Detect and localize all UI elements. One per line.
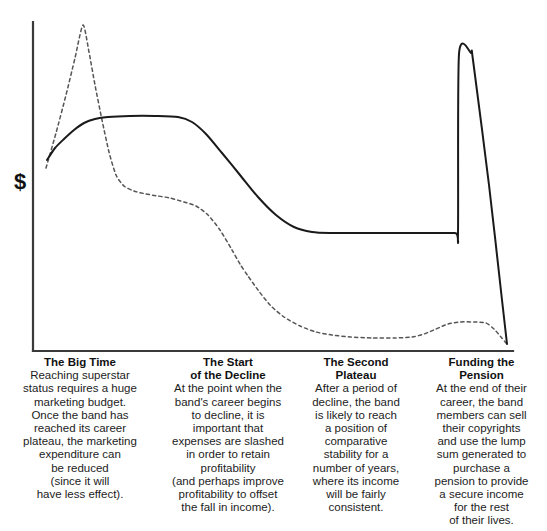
caption-row: The Big Time Reaching superstar status r… — [0, 356, 547, 531]
caption-column-the-start-of-the-decline: The Start of the Decline At the point wh… — [160, 356, 296, 514]
caption-column-funding-the-pension: Funding the Pension At the end of their … — [416, 356, 547, 528]
career-earnings-figure: $ The Big Time Reaching superstar status… — [0, 0, 547, 531]
caption-title: The Start of the Decline — [164, 356, 292, 382]
caption-title: The Second Plateau — [300, 356, 412, 382]
caption-body: At the end of their career, the band mem… — [420, 382, 543, 527]
chart-svg — [0, 0, 547, 360]
series-line-marketing-expenditure — [46, 25, 506, 343]
y-axis-label: $ — [9, 169, 31, 195]
caption-body: Reaching superstar status requires a hug… — [4, 369, 156, 501]
caption-title: The Big Time — [4, 356, 156, 369]
caption-column-the-big-time: The Big Time Reaching superstar status r… — [0, 356, 160, 501]
caption-body: After a period of decline, the band is l… — [300, 382, 412, 514]
series-line-income — [47, 44, 507, 344]
caption-body: At the point when the band's career begi… — [164, 382, 292, 514]
caption-column-the-second-plateau: The Second Plateau After a period of dec… — [296, 356, 416, 514]
chart-plot-area: $ — [0, 0, 547, 360]
caption-title: Funding the Pension — [420, 356, 543, 382]
